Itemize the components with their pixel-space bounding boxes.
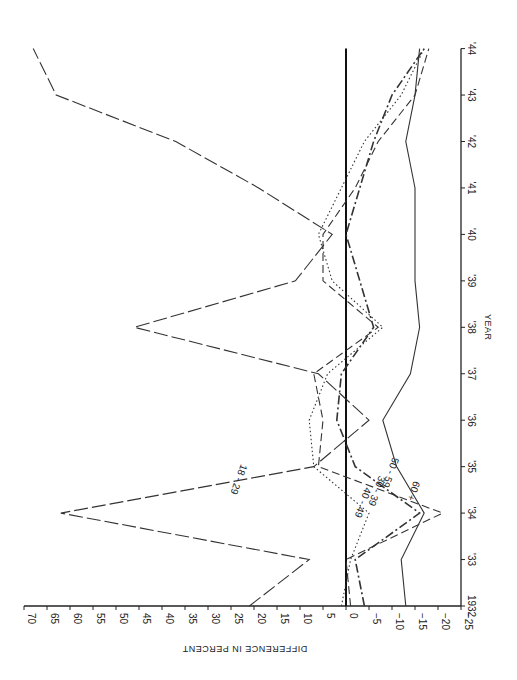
- value-tick-label: 70: [26, 613, 37, 625]
- year-tick-label: '34: [466, 507, 477, 520]
- series-18-29: [33, 49, 369, 606]
- year-tick-label: '42: [466, 135, 477, 148]
- year-tick-label: '39: [466, 274, 477, 287]
- year-tick-label: '36: [466, 414, 477, 427]
- year-tick-label: 1932: [466, 595, 477, 618]
- series-label: 50 - 59: [380, 456, 401, 489]
- year-tick-label: '37: [466, 367, 477, 380]
- value-tick-label: 10: [302, 613, 313, 625]
- value-tick-label: 25: [233, 613, 244, 625]
- year-tick-label: '40: [466, 228, 477, 241]
- series-40-49: [309, 49, 424, 606]
- value-tick-label: −15: [417, 613, 428, 630]
- value-tick-label: 45: [141, 613, 152, 625]
- value-tick-label: 20: [256, 613, 267, 625]
- year-tick-label: '43: [466, 89, 477, 102]
- x-axis: 1932'33'34'35'36'37'38'39'40'41'42'43'44: [461, 42, 477, 617]
- value-tick-label: 5: [325, 613, 336, 619]
- y-axis-title: DIFFERENCE IN PERCENT: [182, 644, 307, 654]
- value-tick-label: 50: [118, 613, 129, 625]
- x-axis-title: YEAR: [483, 314, 493, 341]
- plot-area: [33, 49, 442, 606]
- value-tick-label: 15: [279, 613, 290, 625]
- value-tick-label: 40: [164, 613, 175, 625]
- value-tick-label: −10: [394, 613, 405, 630]
- year-tick-label: '35: [466, 460, 477, 473]
- value-tick-label: −20: [440, 613, 451, 630]
- value-tick-label: 0: [348, 613, 359, 619]
- series-60-: [383, 49, 424, 606]
- value-tick-label: 55: [95, 613, 106, 625]
- year-tick-label: '38: [466, 321, 477, 334]
- series-50-59: [337, 49, 424, 606]
- series-labels: 18 - 2930 - 3940 - 4950 - 5960 +: [228, 456, 422, 520]
- series-30-39: [314, 49, 443, 606]
- value-tick-label: 35: [187, 613, 198, 625]
- series-label: 18 - 29: [228, 463, 249, 496]
- value-tick-label: 30: [210, 613, 221, 625]
- value-tick-label: 65: [49, 613, 60, 625]
- line-chart: 7065605550454035302520151050−5−10−15−20−…: [0, 0, 517, 680]
- y-axis: 7065605550454035302520151050−5−10−15−20−…: [24, 606, 474, 630]
- year-tick-label: '44: [466, 42, 477, 55]
- value-tick-label: −5: [371, 613, 382, 625]
- value-tick-label: 60: [72, 613, 83, 625]
- year-tick-label: '41: [466, 181, 477, 194]
- year-tick-label: '33: [466, 553, 477, 566]
- series-label: 60 +: [405, 480, 422, 502]
